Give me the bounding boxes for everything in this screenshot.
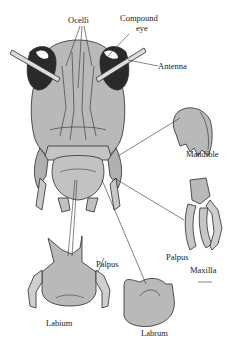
label-palpus-maxilla: Palpus xyxy=(166,253,189,262)
label-ocelli: Ocelli xyxy=(68,16,89,25)
label-compound-eye-line2: eye xyxy=(136,24,148,33)
maxilla xyxy=(185,178,222,250)
label-antenna: Antenna xyxy=(158,62,187,71)
grasshopper-mouthparts-diagram xyxy=(0,0,238,350)
label-compound-eye-line1: Compound xyxy=(120,14,158,23)
label-palpus-labium: Palpus xyxy=(96,260,119,269)
labrum xyxy=(124,278,174,326)
label-labium: Labium xyxy=(46,319,72,328)
label-maxilla: Maxilla xyxy=(190,266,216,275)
label-mandible: Mandible xyxy=(186,150,219,159)
label-labrum: Labrum xyxy=(141,329,168,338)
